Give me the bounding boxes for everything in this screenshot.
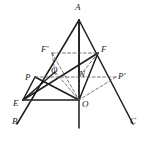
point-label-Q: Q — [51, 66, 58, 75]
geometry-canvas — [0, 0, 149, 142]
solid-line-group — [17, 20, 133, 128]
segment-E-F — [23, 53, 98, 100]
point-label-A: A — [75, 3, 81, 12]
point-label-B: B — [12, 117, 18, 126]
point-label-P: P — [25, 73, 31, 82]
point-label-O: O — [82, 100, 89, 109]
dashed-line-group — [23, 53, 116, 100]
segment-Pp-O — [79, 77, 116, 100]
point-label-Fp: F' — [41, 45, 48, 54]
point-label-F: F — [101, 45, 107, 54]
point-label-E: E — [13, 99, 19, 108]
point-label-N: N — [79, 70, 85, 79]
geometry-figure: AF'FPQNP'EOBC — [0, 0, 149, 142]
segment-Q-O — [55, 72, 79, 100]
point-label-Pp: P' — [118, 72, 125, 81]
point-label-C: C — [130, 117, 136, 126]
